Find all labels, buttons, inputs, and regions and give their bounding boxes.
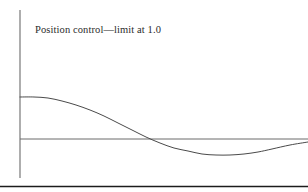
- plot-area: [0, 0, 308, 192]
- plot-background: [0, 0, 308, 192]
- figure-container: Position control—limit at 1.0: [0, 0, 308, 192]
